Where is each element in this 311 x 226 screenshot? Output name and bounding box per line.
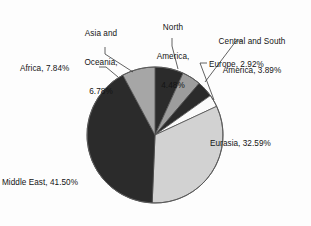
pie-label-central-and-south-america: Central and South America, 3.89% <box>197 18 307 95</box>
pie-label-asia-and-oceania-line3: 6.78% <box>62 87 140 97</box>
chart-area: Asia and Oceania, 6.78% North America, 4… <box>0 0 311 226</box>
pie-label-europe: Europe, 2.92% <box>209 60 305 70</box>
pie-label-central-and-south-america-line1: Central and South <box>197 37 307 47</box>
pie-chart-screenshot: Asia and Oceania, 6.78% North America, 4… <box>0 0 311 226</box>
pie-label-asia-and-oceania-line1: Asia and <box>62 29 140 39</box>
pie-label-north-america-line3: 4.48% <box>142 81 204 91</box>
pie-label-africa: Africa, 7.84% <box>20 64 100 74</box>
pie-label-north-america-line1: North <box>142 23 204 33</box>
pie-label-north-america: North America, 4.48% <box>142 4 204 110</box>
pie-label-asia-and-oceania: Asia and Oceania, 6.78% <box>62 10 140 116</box>
pie-label-eurasia: Eurasia, 32.59% <box>210 139 308 149</box>
pie-label-middle-east: Middle East, 41.50% <box>2 178 106 188</box>
pie-label-north-america-line2: America, <box>142 52 204 62</box>
